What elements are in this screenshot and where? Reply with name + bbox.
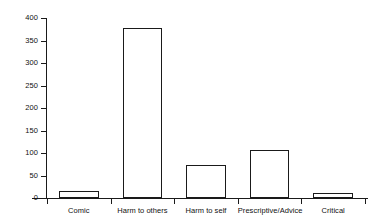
- bar-harm-to-others: [123, 28, 162, 198]
- x-tick-mark: [301, 198, 302, 204]
- y-tick-label: 150: [25, 127, 38, 135]
- bar-critical: [313, 193, 352, 198]
- y-tick-label: 400: [25, 14, 38, 22]
- x-tick-mark: [238, 198, 239, 204]
- bar-prescriptive-advice: [250, 150, 289, 198]
- y-tick-label: 100: [25, 149, 38, 157]
- x-tick-mark: [174, 198, 175, 204]
- x-axis-label: Harm to others: [111, 207, 175, 215]
- x-axis-label: Critical: [301, 207, 365, 215]
- y-tick-label: 50: [29, 172, 38, 180]
- bar-chart: 050100150200250300350400 ComicHarm to ot…: [0, 0, 376, 224]
- x-axis-label: Prescriptive/Advice: [238, 207, 302, 215]
- x-axis-label: Comic: [47, 207, 111, 215]
- x-tick-mark: [111, 198, 112, 204]
- y-tick-label: 0: [34, 194, 38, 202]
- x-axis-label: Harm to self: [174, 207, 238, 215]
- y-tick-label: 300: [25, 59, 38, 67]
- bar-harm-to-self: [186, 165, 225, 198]
- y-tick-label: 350: [25, 37, 38, 45]
- x-tick-mark: [365, 198, 366, 204]
- plot-area: [47, 18, 365, 198]
- x-axis-line: [32, 198, 368, 199]
- y-tick-label: 250: [25, 82, 38, 90]
- y-tick-label: 200: [25, 104, 38, 112]
- bar-comic: [59, 191, 98, 198]
- x-tick-mark: [47, 198, 48, 204]
